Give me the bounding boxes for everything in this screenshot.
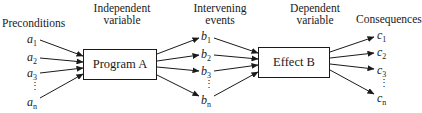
arrow-b2-effect bbox=[214, 55, 258, 59]
arrow-a1-program bbox=[40, 40, 83, 56]
heading-line: Preconditions bbox=[2, 17, 65, 29]
arrow-a2-program bbox=[40, 58, 83, 62]
arrow-program-b1 bbox=[157, 38, 199, 54]
precondition-ellipsis: ⋮ bbox=[30, 80, 40, 92]
intervening-ellipsis: ⋮ bbox=[204, 78, 214, 90]
intervening-b1: b1 bbox=[201, 30, 211, 47]
consequence-ellipsis: ⋮ bbox=[379, 77, 389, 89]
heading-line: events bbox=[188, 14, 252, 26]
arrow-effect-c3 bbox=[330, 64, 374, 69]
effect-b-box: Effect B bbox=[258, 47, 330, 78]
precondition-an: an bbox=[27, 96, 37, 113]
heading-dependent-variable: Dependent variable bbox=[283, 2, 347, 26]
arrow-a3-program bbox=[40, 68, 83, 73]
heading-line: Intervening bbox=[188, 2, 252, 14]
program-a-box: Program A bbox=[83, 49, 157, 80]
arrow-bn-effect bbox=[214, 72, 258, 96]
consequence-c1: c1 bbox=[377, 29, 386, 46]
heading-intervening-events: Intervening events bbox=[188, 2, 252, 26]
arrow-effect-c2 bbox=[330, 53, 374, 58]
arrow-an-program bbox=[40, 74, 83, 98]
consequence-c2: c2 bbox=[377, 46, 386, 63]
arrow-program-b2 bbox=[157, 55, 199, 61]
effect-b-label: Effect B bbox=[273, 55, 315, 70]
heading-line: variable bbox=[90, 14, 154, 26]
heading-line: Independent bbox=[90, 2, 154, 14]
arrow-b1-effect bbox=[214, 38, 258, 53]
heading-line: variable bbox=[283, 14, 347, 26]
precondition-a1: a1 bbox=[27, 33, 37, 50]
arrow-program-b3 bbox=[157, 67, 199, 71]
heading-independent-variable: Independent variable bbox=[90, 2, 154, 26]
heading-consequences: Consequences bbox=[356, 13, 418, 25]
program-a-label: Program A bbox=[93, 57, 148, 72]
intervening-b2: b2 bbox=[201, 48, 211, 65]
arrow-program-bn bbox=[157, 75, 199, 96]
arrow-b3-effect bbox=[214, 65, 258, 71]
arrow-effect-cn bbox=[330, 70, 374, 94]
heading-preconditions: Preconditions bbox=[2, 17, 64, 29]
heading-line: Consequences bbox=[356, 13, 422, 25]
consequence-cn: cn bbox=[377, 92, 386, 109]
heading-line: Dependent bbox=[283, 2, 347, 14]
intervening-bn: bn bbox=[201, 94, 211, 111]
arrow-effect-c1 bbox=[330, 37, 374, 52]
